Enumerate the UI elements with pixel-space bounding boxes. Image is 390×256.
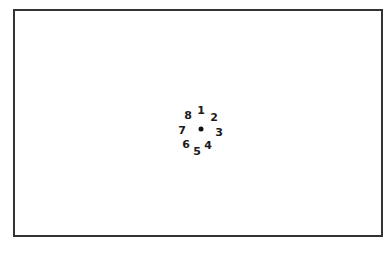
label-1: 1 xyxy=(197,105,205,116)
label-4: 4 xyxy=(204,140,212,151)
label-3: 3 xyxy=(215,127,223,138)
label-2: 2 xyxy=(210,112,218,123)
label-8: 8 xyxy=(184,110,192,121)
label-6: 6 xyxy=(182,139,190,150)
center-dot xyxy=(199,127,204,132)
diagram-frame xyxy=(13,9,383,237)
label-7: 7 xyxy=(178,125,186,136)
label-5: 5 xyxy=(193,146,201,157)
